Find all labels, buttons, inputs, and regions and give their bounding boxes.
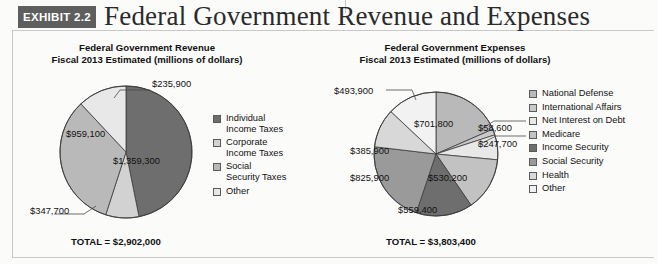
pie-slice-individual-income-taxes	[126, 86, 192, 217]
expenses-value-label-income-security: $559,400	[398, 204, 437, 215]
legend-swatch-icon	[213, 115, 221, 123]
revenue-title-line2: Fiscal 2013 Estimated (millions of dolla…	[22, 54, 272, 66]
revenue-title-line1: Federal Government Revenue	[79, 42, 215, 53]
legend-label: Health	[542, 170, 569, 181]
expenses-value-label-medicare: $530,200	[428, 172, 467, 183]
legend-swatch-icon	[213, 188, 221, 196]
legend-item[interactable]: National Defense	[529, 88, 649, 99]
exhibit-figure: EXHIBIT 2.2 Federal Government Revenue a…	[0, 0, 658, 264]
legend-label-line2: Income Taxes	[226, 124, 283, 134]
legend-item[interactable]: Income Security	[529, 142, 649, 153]
legend-swatch-icon	[529, 144, 537, 152]
legend-swatch-icon	[529, 104, 537, 112]
legend-label: Social Security	[542, 156, 604, 167]
legend-label: Corporate Income Taxes	[226, 137, 283, 158]
expenses-total: TOTAL = $3,803,400	[386, 236, 476, 247]
legend-label-line1: Corporate	[226, 137, 267, 147]
legend-label: International Affairs	[542, 102, 621, 113]
legend-item[interactable]: Social Security	[529, 156, 649, 167]
revenue-value-label-other: $347,700	[30, 205, 69, 216]
legend-label: Other	[226, 186, 249, 197]
page-title: Federal Government Revenue and Expenses	[104, 1, 590, 32]
revenue-value-label-individual: $1,359,300	[113, 155, 160, 166]
legend-swatch-icon	[529, 158, 537, 166]
expenses-pie-chart	[370, 88, 502, 220]
expenses-title-line1: Federal Government Expenses	[385, 42, 526, 53]
expenses-value-label-social-security: $825,900	[350, 172, 389, 183]
revenue-pie-svg	[56, 82, 196, 222]
legend-label-line2: Income Taxes	[226, 148, 283, 158]
legend-label: Social Security Taxes	[226, 161, 286, 182]
legend-item[interactable]: Net Interest on Debt	[529, 115, 649, 126]
expenses-title: Federal Government Expenses Fiscal 2013 …	[330, 42, 580, 66]
legend-label-line2: Security Taxes	[226, 172, 286, 182]
expenses-value-label-health: $385,900	[350, 145, 389, 156]
legend-item[interactable]: Other	[213, 186, 299, 197]
expenses-value-label-net-interest: $247,700	[478, 138, 517, 149]
exhibit-badge: EXHIBIT 2.2	[18, 6, 96, 28]
legend-swatch-icon	[529, 172, 537, 180]
legend-item[interactable]: International Affairs	[529, 102, 649, 113]
legend-item[interactable]: Corporate Income Taxes	[213, 137, 299, 158]
legend-item[interactable]: Health	[529, 170, 649, 181]
revenue-value-label-corporate: $235,900	[152, 78, 191, 89]
expenses-panel: Federal Government Expenses Fiscal 2013 …	[322, 42, 642, 66]
expenses-value-label-national-defense: $701,800	[414, 118, 453, 129]
revenue-legend: Individual Income Taxes Corporate Income…	[213, 113, 299, 199]
legend-label: Other	[542, 183, 565, 194]
legend-item[interactable]: Other	[529, 183, 649, 194]
legend-label: Net Interest on Debt	[542, 115, 625, 126]
expenses-value-label-international-affairs: $58,600	[478, 122, 512, 133]
expenses-value-label-other: $493,900	[334, 85, 373, 96]
revenue-title: Federal Government Revenue Fiscal 2013 E…	[22, 42, 272, 66]
legend-label-line1: Individual	[226, 113, 265, 123]
legend-swatch-icon	[529, 117, 537, 125]
expenses-pie-svg	[370, 88, 502, 220]
legend-item[interactable]: Individual Income Taxes	[213, 113, 299, 134]
revenue-value-label-social-security: $959,100	[66, 128, 105, 139]
legend-swatch-icon	[529, 90, 537, 98]
legend-label: Medicare	[542, 129, 580, 140]
expenses-legend: National Defense International Affairs N…	[529, 88, 649, 197]
legend-item[interactable]: Social Security Taxes	[213, 161, 299, 182]
legend-item[interactable]: Medicare	[529, 129, 649, 140]
revenue-pie-chart	[56, 82, 196, 222]
legend-swatch-icon	[213, 139, 221, 147]
exhibit-badge-label: EXHIBIT 2.2	[23, 11, 91, 23]
revenue-panel: Federal Government Revenue Fiscal 2013 E…	[12, 42, 322, 66]
legend-swatch-icon	[529, 185, 537, 193]
revenue-total: TOTAL = $2,902,000	[71, 236, 161, 247]
legend-label-line1: Social	[226, 161, 251, 171]
expenses-title-line2: Fiscal 2013 Estimated (millions of dolla…	[330, 54, 580, 66]
legend-label: Income Security	[542, 142, 609, 153]
legend-label: National Defense	[542, 88, 613, 99]
legend-swatch-icon	[529, 131, 537, 139]
legend-label: Individual Income Taxes	[226, 113, 283, 134]
legend-swatch-icon	[213, 163, 221, 171]
